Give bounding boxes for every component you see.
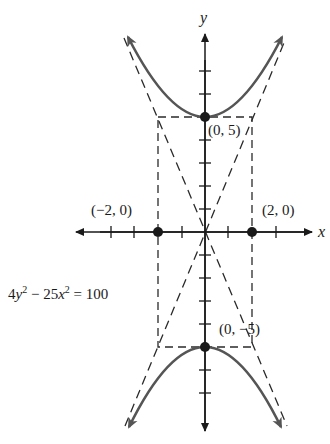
label-point-2-0: (2, 0) xyxy=(262,203,295,218)
point-vertex-bottom xyxy=(200,342,210,352)
point-neg-2-0 xyxy=(153,227,163,237)
hyperbola-diagram xyxy=(0,0,330,444)
x-axis xyxy=(76,226,312,238)
label-vertex-top: (0, 5) xyxy=(208,123,241,138)
x-axis-label: x xyxy=(318,224,325,240)
y-axis-label: y xyxy=(200,10,207,26)
point-vertex-top xyxy=(200,112,210,122)
equation-label: 4y2 − 25x2 = 100 xyxy=(8,287,108,302)
label-vertex-bottom: (0, −5) xyxy=(219,322,260,337)
label-point-neg-2-0: (−2, 0) xyxy=(91,203,132,218)
point-2-0 xyxy=(247,227,257,237)
